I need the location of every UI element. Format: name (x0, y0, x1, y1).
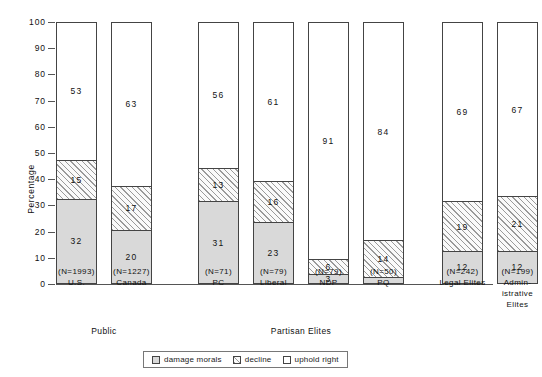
legend-item-decline[interactable]: decline (233, 355, 272, 364)
segment-decline: 15 (57, 161, 96, 200)
segment-decline: 19 (443, 202, 482, 251)
legend-swatch-white (283, 356, 291, 364)
legend-label: damage morals (164, 355, 222, 364)
plot-area: 0102030405060708090100 32155320176331135… (56, 22, 493, 285)
sample-size: (N=71) (189, 266, 249, 277)
legend-item-uphold-right[interactable]: uphold right (283, 355, 339, 364)
sample-size: (N=50) (354, 266, 414, 277)
legend-swatch-hatched (233, 356, 241, 364)
bar-pc[interactable]: 311356 (198, 22, 239, 284)
bar-canada[interactable]: 201763 (111, 22, 152, 284)
sample-size: (N=1227) (102, 266, 162, 277)
x-label-administrative-elites: (N=199)Admin-istrativeElites (488, 266, 542, 310)
x-label-ndp: (N=79)NDP (299, 266, 359, 288)
segment-uphold-right: 91 (309, 23, 348, 260)
x-label-pq: (N=50)PQ (354, 266, 414, 288)
segment-uphold-right: 67 (498, 23, 537, 197)
legend: damage moralsdeclineuphold right (143, 351, 348, 368)
bar-ndp[interactable]: 3691 (308, 22, 349, 284)
category-name: PC (189, 277, 249, 288)
category-name: Legal Elites (433, 277, 493, 288)
legend-label: decline (245, 355, 272, 364)
segment-decline: 13 (199, 169, 238, 203)
bar-pq[interactable]: 1484 (363, 22, 404, 284)
bar-administrative-elites[interactable]: 122167 (497, 22, 538, 284)
y-tick-80 (48, 74, 55, 75)
category-name: U.S. (47, 277, 107, 288)
segment-uphold-right: 61 (254, 23, 293, 182)
y-tick-label-70: 70 (35, 96, 46, 106)
category-name: Canada (102, 277, 162, 288)
y-tick-label-100: 100 (29, 17, 46, 27)
segment-uphold-right: 69 (443, 23, 482, 202)
legend-swatch-dotted (152, 356, 160, 364)
bar-liberal[interactable]: 231661 (253, 22, 294, 284)
x-label-liberal: (N=79)Liberal (244, 266, 304, 288)
y-tick-label-30: 30 (35, 200, 46, 210)
segment-uphold-right: 56 (199, 23, 238, 169)
y-tick-label-50: 50 (35, 148, 46, 158)
y-tick-40 (48, 179, 55, 180)
category-name: Admin- (488, 277, 542, 288)
category-name: Liberal (244, 277, 304, 288)
legend-item-damage-morals[interactable]: damage morals (152, 355, 222, 364)
y-tick-label-10: 10 (35, 253, 46, 263)
y-tick-label-90: 90 (35, 43, 46, 53)
x-label-pc: (N=71)PC (189, 266, 249, 288)
sample-size: (N=1993) (47, 266, 107, 277)
sample-size: (N=242) (433, 266, 493, 277)
segment-uphold-right: 84 (364, 23, 403, 241)
segment-decline: 17 (112, 187, 151, 231)
y-tick-label-40: 40 (35, 174, 46, 184)
bar-u-s[interactable]: 321553 (56, 22, 97, 284)
category-name: NDP (299, 277, 359, 288)
y-tick-100 (48, 22, 55, 23)
segment-uphold-right: 53 (57, 23, 96, 161)
segment-decline: 16 (254, 182, 293, 224)
category-name: istrative (488, 288, 542, 299)
y-tick-70 (48, 101, 55, 102)
y-tick-label-20: 20 (35, 227, 46, 237)
bar-legal-elites[interactable]: 121969 (442, 22, 483, 284)
y-tick-20 (48, 232, 55, 233)
y-tick-50 (48, 153, 55, 154)
y-tick-label-80: 80 (35, 69, 46, 79)
x-label-canada: (N=1227)Canada (102, 266, 162, 288)
y-tick-30 (48, 205, 55, 206)
sample-size: (N=79) (244, 266, 304, 277)
y-tick-label-60: 60 (35, 122, 46, 132)
y-tick-90 (48, 48, 55, 49)
y-tick-60 (48, 127, 55, 128)
x-label-legal-elites: (N=242)Legal Elites (433, 266, 493, 288)
sample-size: (N=79) (299, 266, 359, 277)
cluster-label-public: Public (44, 326, 164, 336)
category-name: PQ (354, 277, 414, 288)
x-label-u-s: (N=1993)U.S. (47, 266, 107, 288)
cluster-label-partisan-elites: Partisan Elites (241, 326, 361, 336)
y-tick-10 (48, 258, 55, 259)
sample-size: (N=199) (488, 266, 542, 277)
legend-label: uphold right (295, 355, 339, 364)
category-name: Elites (488, 299, 542, 310)
segment-uphold-right: 63 (112, 23, 151, 187)
segment-decline: 21 (498, 197, 537, 252)
y-tick-label-0: 0 (40, 279, 46, 289)
